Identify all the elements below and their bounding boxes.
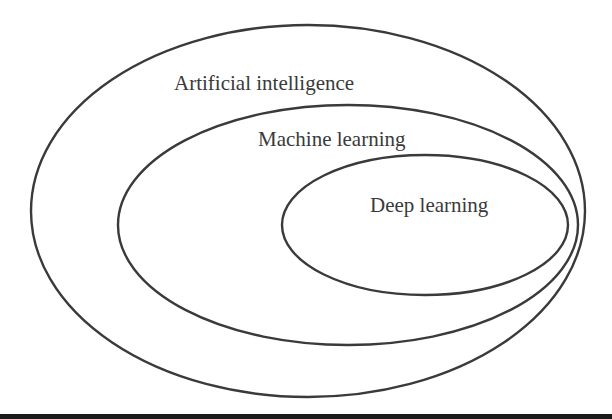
ai-ml-dl-venn-diagram: Artificial intelligence Machine learning… <box>0 0 612 419</box>
label-artificial-intelligence: Artificial intelligence <box>174 71 354 95</box>
ellipse-deep-learning <box>282 155 568 295</box>
label-machine-learning: Machine learning <box>258 127 406 151</box>
label-deep-learning: Deep learning <box>370 193 489 217</box>
bottom-border-bar <box>0 414 612 419</box>
